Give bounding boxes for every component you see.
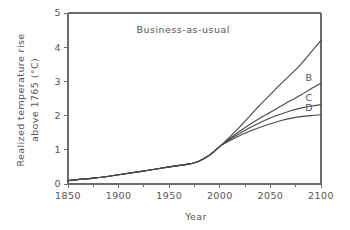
x-tick-label-2100: 2100 (308, 190, 334, 201)
chart-series (68, 40, 321, 180)
curve-label-d: D (305, 102, 312, 113)
chart-figure: 012345185019001950200020502100 Year Real… (0, 0, 350, 230)
x-tick-label-1850: 1850 (55, 190, 81, 201)
y-tick-label-3: 3 (55, 76, 61, 87)
series-line-b (68, 83, 321, 180)
chart-curve-labels: BCD (305, 72, 312, 114)
series-line-business-as-usual (68, 40, 321, 180)
y-tick-label-5: 5 (55, 7, 61, 18)
curve-label-b: B (306, 72, 313, 83)
series-line-c (68, 105, 321, 181)
chart-axes (68, 13, 321, 184)
annotation-business-as-usual: Business-as-usual (136, 24, 229, 35)
x-tick-label-2000: 2000 (207, 190, 233, 201)
chart-tick-labels: 012345185019001950200020502100 (55, 7, 334, 201)
x-tick-label-2050: 2050 (258, 190, 284, 201)
x-tick-label-1950: 1950 (156, 190, 182, 201)
x-tick-label-1900: 1900 (106, 190, 132, 201)
y-tick-label-2: 2 (55, 110, 61, 121)
y-tick-label-4: 4 (55, 42, 61, 53)
series-line-d (68, 115, 321, 181)
y-axis-title-line-2: above 1765 (°C) (29, 58, 40, 142)
y-tick-label-1: 1 (55, 144, 61, 155)
x-axis-title: Year (184, 211, 207, 222)
line-chart: 012345185019001950200020502100 Year Real… (0, 0, 350, 230)
y-tick-label-0: 0 (55, 178, 61, 189)
chart-ticks (64, 13, 321, 188)
chart-annotations: Business-as-usual (136, 24, 229, 35)
y-axis-title-line-1: Realized temperature rise (15, 33, 26, 166)
